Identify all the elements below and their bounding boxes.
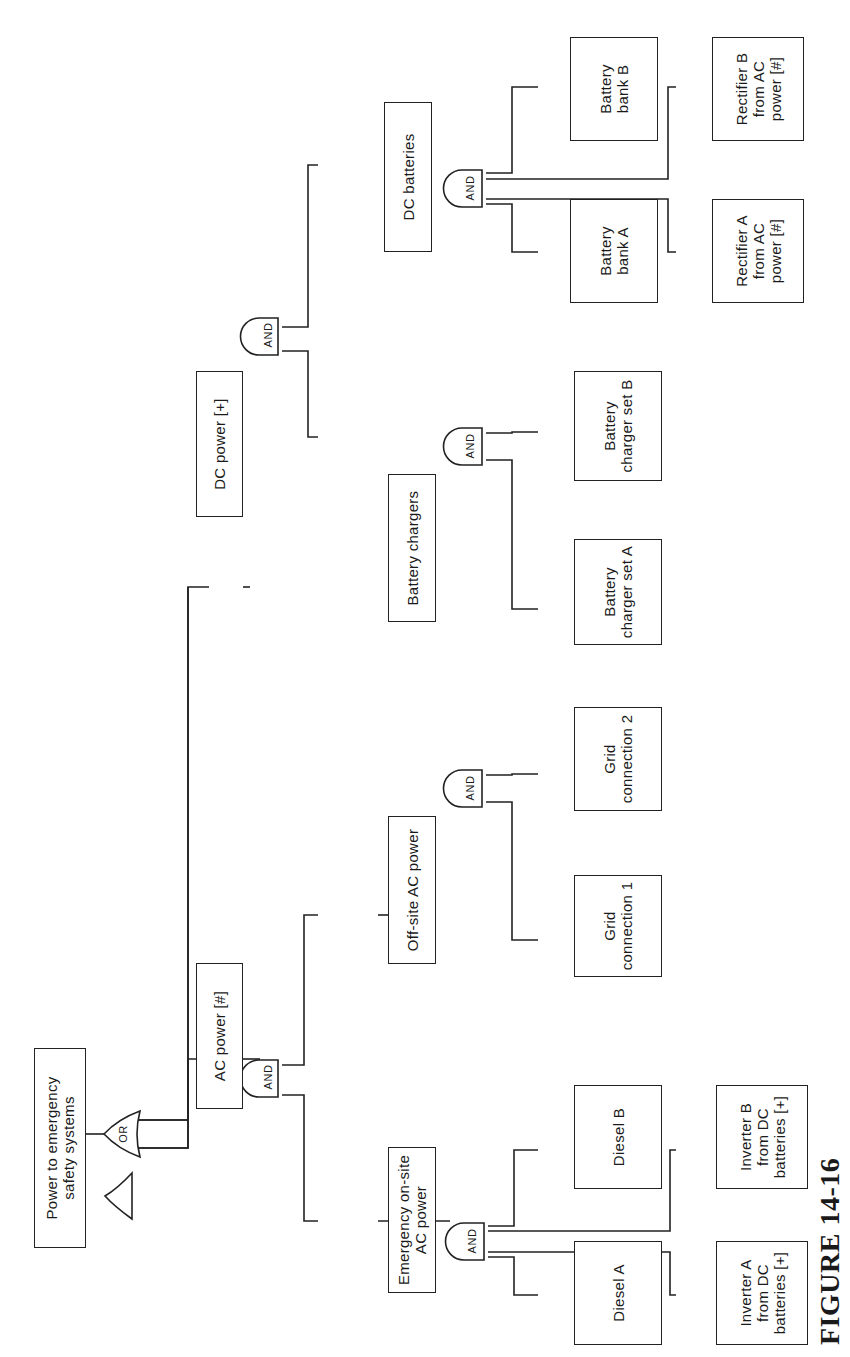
- node-diesel-b: Diesel B: [574, 1085, 662, 1189]
- and-gate-emergency-label: AND: [462, 1223, 482, 1259]
- figure-caption: FIGURE 14-16: [814, 1158, 846, 1345]
- node-emergency-onsite-ac-power: Emergency on-site AC power: [388, 1147, 436, 1293]
- and-gate-ac-label: AND: [258, 1059, 278, 1095]
- node-grid-connection-2: Grid connection 2: [574, 707, 662, 811]
- and-gate-chargers-label: AND: [460, 428, 480, 464]
- node-inverter-a: Inverter A from DC batteries [+]: [716, 1241, 808, 1345]
- node-rectifier-a: Rectifier A from AC power [#]: [712, 199, 804, 303]
- node-diesel-a: Diesel A: [574, 1241, 662, 1345]
- and-gate-offsite-label: AND: [460, 770, 480, 806]
- and-gate-dc-label: AND: [258, 317, 278, 353]
- and-gate-batteries-label: AND: [460, 170, 480, 206]
- node-grid-connection-1: Grid connection 1: [574, 875, 662, 977]
- or-gate-label: OR: [112, 1116, 134, 1152]
- node-battery-charger-set-a: Battery charger set A: [574, 539, 662, 645]
- fault-tree-diagram: Power to emergency safety systems OR AC …: [0, 0, 850, 1357]
- node-battery-bank-b: Battery bank B: [570, 37, 658, 141]
- node-rectifier-b: Rectifier B from AC power [#]: [712, 37, 804, 141]
- node-inverter-b: Inverter B from DC batteries [+]: [716, 1085, 808, 1189]
- node-dc-batteries: DC batteries: [384, 102, 432, 252]
- node-ac-power: AC power [#]: [196, 963, 243, 1109]
- node-dc-power: DC power [+]: [196, 371, 243, 517]
- node-power-to-emergency-safety-systems: Power to emergency safety systems: [34, 1048, 86, 1248]
- node-battery-chargers: Battery chargers: [388, 474, 436, 622]
- node-offsite-ac-power: Off-site AC power: [388, 816, 436, 964]
- node-battery-bank-a: Battery bank A: [570, 199, 658, 303]
- node-battery-charger-set-b: Battery charger set B: [574, 371, 662, 481]
